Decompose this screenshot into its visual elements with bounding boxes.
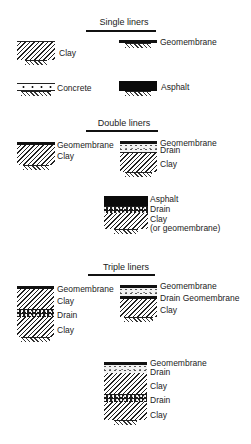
- liner-diagram-double-geo-clay: [17, 142, 55, 170]
- asphalt-layer: [104, 196, 148, 206]
- liner-diagram-double-asphalt-drain-clay: [104, 196, 148, 234]
- liner-label: Geomembrane: [57, 140, 114, 150]
- subgrade-base: [125, 43, 151, 48]
- subgrade-base: [124, 317, 153, 322]
- section-title-triple-liners: Triple liners: [88, 262, 164, 272]
- liner-label: (or geomembrane): [150, 223, 220, 233]
- subgrade-base: [125, 91, 151, 96]
- geomembrane-layer: [119, 40, 157, 43]
- drain-layer: [104, 394, 147, 402]
- concrete-layer: [17, 83, 55, 91]
- clay-layer: [104, 373, 147, 394]
- section-title-single-liners: Single liners: [86, 17, 162, 27]
- subgrade-base: [25, 60, 47, 65]
- liner-diagram-single-concrete: [17, 83, 55, 96]
- section-rule: [86, 30, 156, 32]
- section-title-double-liners: Double liners: [86, 118, 162, 128]
- liner-label: Clay: [57, 151, 74, 161]
- liner-label: Clay: [150, 410, 167, 420]
- liner-label: Geomembrane: [160, 281, 217, 291]
- clay-layer: [120, 299, 157, 317]
- asphalt-layer: [119, 81, 157, 91]
- clay-layer: [17, 41, 55, 60]
- liner-label: Clay: [57, 325, 74, 335]
- drain-layer: [17, 309, 54, 317]
- clay-layer: [120, 152, 157, 172]
- liner-label: Drain: [150, 395, 170, 405]
- liner-label: Drain: [150, 367, 170, 377]
- clay-layer: [104, 213, 148, 229]
- liner-label: Clay: [57, 296, 74, 306]
- liner-label: Drain: [150, 204, 170, 214]
- liner-diagram-single-clay: [17, 41, 55, 65]
- liner-label: Concrete: [57, 83, 92, 93]
- section-rule: [86, 130, 158, 132]
- subgrade-base: [125, 172, 152, 177]
- liner-diagram-single-geomembrane: [119, 40, 157, 48]
- subgrade-base: [21, 337, 50, 342]
- drain-layer: [104, 206, 148, 213]
- clay-layer: [17, 317, 54, 337]
- liner-label: Clay: [160, 159, 177, 169]
- liner-diagram-triple-geo-drain-geo-clay: [120, 285, 157, 322]
- liner-label: Clay: [160, 305, 177, 315]
- liner-label: Asphalt: [161, 82, 189, 92]
- liner-label: Clay: [150, 381, 167, 391]
- liner-diagram-double-geo-drain-clay: [120, 141, 157, 177]
- liner-label: Clay: [59, 48, 76, 58]
- drain-layer: [120, 144, 157, 152]
- drain-layer: [120, 288, 157, 296]
- liner-label: Asphalt: [150, 194, 178, 204]
- liner-label: Geomembrane: [160, 37, 217, 47]
- drain-layer: [104, 365, 147, 373]
- subgrade-base: [21, 91, 51, 96]
- subgrade-base: [114, 420, 137, 425]
- clay-layer: [17, 289, 54, 309]
- liner-label: Drain: [160, 145, 180, 155]
- liner-label: Geomembrane: [57, 284, 114, 294]
- liner-label: Drain Geomembrane: [160, 293, 239, 303]
- subgrade-base: [114, 229, 138, 234]
- section-rule: [88, 274, 155, 276]
- liner-label: Drain: [57, 310, 77, 320]
- clay-layer: [104, 402, 147, 420]
- liner-diagram-triple-geo-drain-clay-drain-clay: [104, 362, 147, 425]
- liner-diagram-single-asphalt: [119, 81, 157, 96]
- clay-layer: [17, 145, 55, 165]
- subgrade-base: [23, 165, 49, 170]
- liner-diagram-triple-geo-clay-drain-clay: [17, 286, 54, 342]
